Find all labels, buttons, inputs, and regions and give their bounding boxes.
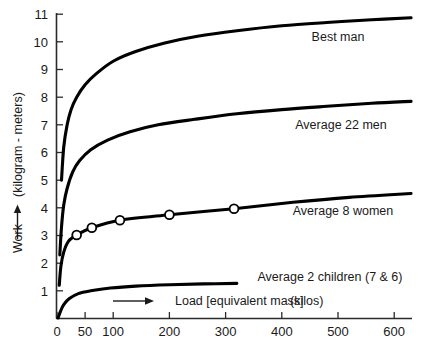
- x-tick-label-500: 500: [327, 324, 349, 339]
- y-tick-label-8: 8: [41, 90, 48, 105]
- y-axis-label-units: (kilogram - meters): [11, 92, 25, 197]
- x-axis-label-main: Load [equivalent mass]: [175, 294, 304, 308]
- y-tick-label-4: 4: [41, 201, 48, 216]
- x-tick-label-200: 200: [159, 324, 181, 339]
- curve-label-average-8-women: Average 8 women: [293, 204, 394, 218]
- chart-page: 11 10 9 8 7 6 5 4 3 2 1 0 50 100: [0, 0, 421, 347]
- x-tick-label-600: 600: [383, 324, 405, 339]
- curve-label-average-22-men: Average 22 men: [295, 118, 387, 132]
- y-tick-label-6: 6: [41, 145, 48, 160]
- curve-label-best-man: Best man: [312, 30, 365, 44]
- x-tick-label-300: 300: [215, 324, 237, 339]
- x-tick-label-100: 100: [102, 324, 124, 339]
- data-point-marker: [230, 204, 239, 213]
- y-tick-label-5: 5: [41, 173, 48, 188]
- data-point-marker: [116, 216, 125, 225]
- data-point-marker: [165, 210, 174, 219]
- work-vs-load-chart: 11 10 9 8 7 6 5 4 3 2 1 0 50 100: [0, 0, 421, 347]
- data-point-marker: [87, 223, 96, 232]
- y-tick-label-7: 7: [41, 118, 48, 133]
- curve-label-average-2-children: Average 2 children (7 & 6): [258, 270, 403, 284]
- x-tick-label-400: 400: [271, 324, 293, 339]
- y-axis-title-group: Work (kilogram - meters): [11, 92, 25, 253]
- y-tick-label-1: 1: [41, 284, 48, 299]
- x-tick-label-0: 0: [53, 324, 60, 339]
- data-point-marker: [72, 231, 81, 240]
- x-tick-label-50: 50: [78, 324, 92, 339]
- y-tick-label-11: 11: [35, 7, 49, 22]
- y-tick-label-3: 3: [41, 228, 48, 243]
- y-tick-label-9: 9: [41, 62, 48, 77]
- y-tick-label-2: 2: [41, 256, 48, 271]
- x-axis-label-units: (kilos): [290, 294, 323, 308]
- y-tick-label-10: 10: [34, 35, 48, 50]
